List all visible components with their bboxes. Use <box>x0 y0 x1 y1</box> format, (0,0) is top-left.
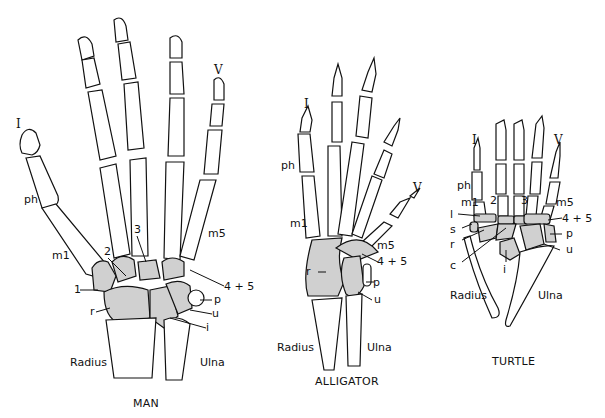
turtle-label-centrale: c <box>450 260 456 272</box>
man-carpal-3 <box>138 260 160 280</box>
turtle-sesamoid <box>470 222 478 232</box>
turtle-label-m1: m1 <box>461 197 479 209</box>
man-label-carpal-2: 2 <box>104 246 111 258</box>
turtle-label-pisiform: p <box>566 228 573 240</box>
man-label-radius: Radius <box>70 357 107 369</box>
turtle-label-radius: Radius <box>450 290 487 302</box>
alligator-label-carpal-45: 4 + 5 <box>377 256 407 268</box>
man-label-intermedium: i <box>206 322 209 334</box>
turtle-label-carpal-3: 3 <box>521 195 528 207</box>
turtle-label-ulnare: u <box>566 244 573 256</box>
alligator-title: ALLIGATOR <box>315 375 379 388</box>
man-pisiform <box>188 290 204 306</box>
man-hand-drawing <box>20 18 224 380</box>
man-label-digit-i: I <box>16 118 21 130</box>
turtle-label-carpal-2: 2 <box>490 195 497 207</box>
turtle-label-phalanx: ph <box>457 180 471 192</box>
turtle-radiale <box>478 224 498 242</box>
alligator-ulnare <box>341 256 364 297</box>
alligator-hand-drawing <box>298 58 420 370</box>
turtle-label-sesamoid: s <box>450 224 456 236</box>
man-label-radiale: r <box>90 306 95 318</box>
alligator-label-radius: Radius <box>277 342 314 354</box>
alligator-label-pisiform: p <box>373 277 380 289</box>
alligator-label-ulnare: u <box>374 294 381 306</box>
alligator-label-phalanx: ph <box>281 160 295 172</box>
alligator-label-radiale: r <box>306 266 311 278</box>
man-carpal-1 <box>92 261 116 292</box>
turtle-pisiform <box>544 224 556 242</box>
man-carpal-45 <box>162 258 184 280</box>
man-label-ulnare: u <box>212 308 219 320</box>
turtle-centrale <box>496 224 516 240</box>
turtle-carpal-1 <box>474 214 496 222</box>
man-label-carpal-3: 3 <box>134 224 141 236</box>
turtle-carpal-45 <box>524 214 550 224</box>
turtle-intermedium <box>500 238 520 260</box>
alligator-label-m5: m5 <box>377 240 395 252</box>
alligator-pisiform <box>363 264 371 286</box>
turtle-label-carpal-1: l <box>450 209 453 221</box>
man-label-carpal-45: 4 + 5 <box>224 281 254 293</box>
turtle-label-ulna: Ulna <box>538 290 563 302</box>
turtle-label-digit-v: V <box>554 134 563 146</box>
alligator-label-m1: m1 <box>290 218 308 230</box>
turtle-label-intermedium: i <box>503 264 506 276</box>
turtle-label-digit-i: I <box>472 134 477 146</box>
man-label-ulna: Ulna <box>200 357 225 369</box>
man-label-m1: m1 <box>52 250 70 262</box>
turtle-label-carpal-45: 4 + 5 <box>562 213 592 225</box>
man-label-carpal-1: 1 <box>74 284 81 296</box>
turtle-title: TURTLE <box>492 355 535 368</box>
man-label-pisiform: p <box>214 294 221 306</box>
turtle-carpal-2 <box>498 216 514 224</box>
man-label-m5: m5 <box>208 228 226 240</box>
man-label-phalanx: ph <box>24 194 38 206</box>
turtle-label-m5: m5 <box>556 197 574 209</box>
alligator-label-ulna: Ulna <box>367 342 392 354</box>
alligator-label-digit-i: I <box>304 98 309 110</box>
alligator-label-digit-v: V <box>413 182 422 194</box>
forelimb-comparison-figure: I V ph m1 m5 1 2 3 4 + 5 p u r i Radius … <box>0 0 605 418</box>
man-label-digit-v: V <box>214 64 223 76</box>
turtle-label-radiale: r <box>450 239 455 251</box>
man-title: MAN <box>133 397 159 410</box>
